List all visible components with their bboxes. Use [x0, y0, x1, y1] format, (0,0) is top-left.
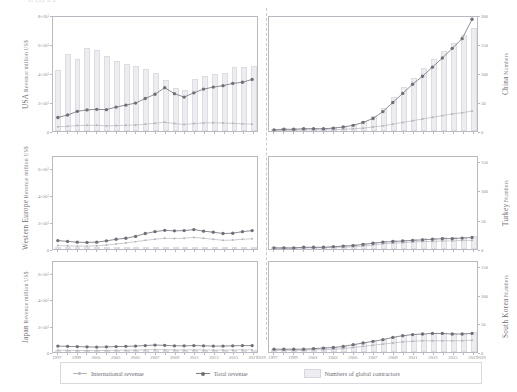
data-point: [431, 332, 434, 335]
data-point: [361, 121, 364, 124]
legend-label: Numbers of global contractors: [325, 370, 400, 377]
x-tick-mark: [323, 353, 324, 355]
unit-label: Revenue million US$: [23, 271, 29, 325]
data-point: [56, 344, 59, 347]
x-tick-mark: [383, 132, 384, 134]
x-tick-label: 2011: [408, 355, 417, 360]
data-point: [173, 92, 176, 95]
x-tick-mark: [433, 250, 434, 252]
x-tick-label: 1999: [288, 355, 297, 360]
data-point: [163, 86, 166, 89]
x-tick-mark: [57, 250, 58, 252]
y-tick-label: 100: [481, 293, 488, 298]
line-dot-marker-icon: [196, 373, 210, 374]
panel-turkey: [268, 156, 478, 250]
y-tick-label: 4×10⁵: [38, 72, 49, 77]
x-tick-label: 2019: [476, 355, 485, 360]
data-point: [250, 344, 253, 347]
data-point: [144, 239, 146, 241]
data-point: [67, 125, 69, 127]
figure-root: a. (a) a a USA Revenue million US$02×10⁵…: [0, 0, 517, 392]
data-point: [95, 345, 98, 348]
data-point: [95, 108, 98, 111]
y-tick-mark: [50, 169, 52, 170]
data-point: [352, 244, 355, 247]
x-tick-mark: [473, 250, 474, 252]
data-point: [76, 110, 79, 113]
data-point: [96, 350, 98, 352]
data-point: [144, 97, 147, 100]
data-point: [232, 349, 234, 351]
x-tick-mark: [67, 353, 68, 355]
y-tick-label: 6×10⁵: [38, 167, 49, 172]
data-point: [153, 230, 156, 233]
data-point: [251, 238, 253, 240]
data-point: [57, 126, 59, 128]
data-point: [85, 345, 88, 348]
unit-label: Revenue million US$: [23, 146, 29, 200]
y-tick-mark: [478, 132, 480, 133]
x-tick-label: 1999: [72, 355, 81, 360]
x-tick-mark: [363, 353, 364, 355]
data-point: [114, 105, 117, 108]
y-tick-label: 100: [481, 72, 488, 77]
x-tick-mark: [175, 250, 176, 252]
x-tick-label: 2011: [190, 355, 199, 360]
y-tick-label: 2×10⁵: [38, 221, 49, 226]
x-tick-mark: [184, 250, 185, 252]
data-point: [322, 127, 325, 130]
x-tick-mark: [423, 353, 424, 355]
data-point: [153, 93, 156, 96]
data-point: [212, 231, 215, 234]
data-point: [164, 349, 166, 351]
axis-title-japan: Japan Revenue million US$: [18, 261, 34, 353]
x-tick-label: 2009: [170, 355, 179, 360]
y-tick-mark: [50, 132, 52, 133]
data-point: [352, 347, 354, 349]
data-point: [86, 124, 88, 126]
data-point: [134, 344, 137, 347]
series-line-total-revenue: [274, 19, 472, 130]
series-layer: [269, 17, 477, 131]
cropped-header-text: a. (a) a a: [0, 0, 517, 8]
x-tick-mark: [165, 353, 166, 355]
data-point: [76, 345, 79, 348]
data-point: [401, 334, 404, 337]
data-point: [96, 124, 98, 126]
x-tick-mark: [463, 132, 464, 134]
y-tick-label: 0: [47, 248, 49, 253]
x-tick-mark: [413, 250, 414, 252]
x-tick-mark: [67, 250, 68, 252]
y-tick-mark: [478, 162, 480, 163]
x-tick-mark: [145, 132, 146, 134]
data-point: [193, 123, 195, 125]
data-point: [292, 128, 295, 131]
y-tick-label: 2×10⁵: [38, 324, 49, 329]
y-tick-label: 50: [481, 101, 486, 106]
x-tick-label: 2001: [91, 355, 100, 360]
data-point: [412, 340, 414, 342]
x-tick-label: 2003: [328, 355, 337, 360]
panel-china: [268, 16, 478, 132]
y-tick-mark: [50, 250, 52, 251]
data-point: [422, 340, 424, 342]
data-point: [241, 349, 243, 351]
data-point: [76, 245, 78, 247]
data-point: [183, 349, 185, 351]
y-tick-mark: [50, 196, 52, 197]
data-point: [250, 78, 253, 81]
x-tick-label: 2019: [256, 355, 265, 360]
x-tick-mark: [165, 250, 166, 252]
data-point: [402, 341, 404, 343]
x-tick-label: 2015: [229, 355, 238, 360]
x-tick-mark: [126, 250, 127, 252]
data-point: [203, 349, 205, 351]
legend-label: Total revenue: [214, 370, 248, 377]
axis-title-usa: USA Revenue million US$: [18, 16, 34, 132]
data-point: [105, 239, 108, 242]
data-point: [371, 242, 374, 245]
x-tick-mark: [175, 132, 176, 134]
data-point: [352, 124, 355, 127]
x-tick-mark: [86, 250, 87, 252]
x-tick-mark: [343, 132, 344, 134]
